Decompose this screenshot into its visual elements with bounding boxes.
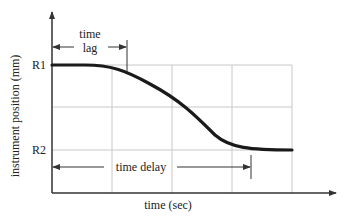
time-delay-label: time delay (116, 160, 166, 174)
r2-label: R2 (32, 143, 46, 157)
y-axis-label: instrument position (mm) (8, 55, 22, 178)
time-delay-annotation: time delay (53, 155, 251, 179)
time-lag-label-2: lag (83, 41, 98, 55)
grid (52, 65, 292, 193)
response-diagram: time lag time delay R1 R2 time (sec) ins… (0, 0, 346, 217)
time-lag-label-1: time (79, 27, 100, 41)
x-axis-label: time (sec) (144, 198, 192, 212)
r1-label: R1 (32, 58, 46, 72)
